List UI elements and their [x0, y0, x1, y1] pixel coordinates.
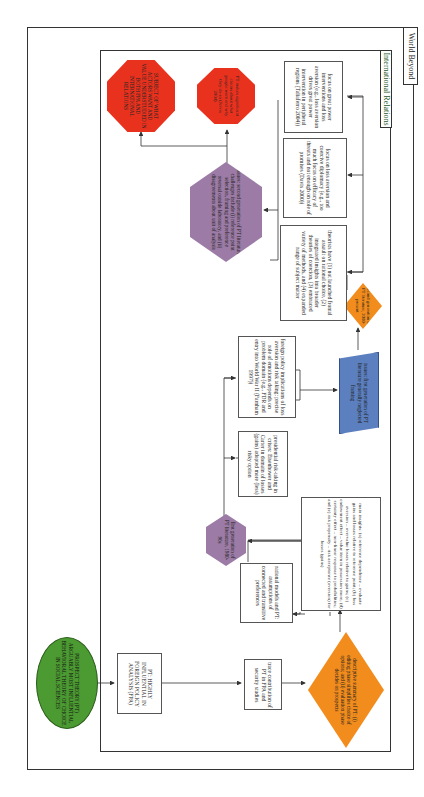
first-gen-issues-node: issues: first generation of PT literatur…: [339, 352, 379, 434]
prospect-theory-root-node: PROSPECT THEORY (PT) ARGUABLY MOST INFLU…: [36, 637, 98, 729]
rational-models-node: rational models and PT: assumptions of c…: [240, 563, 293, 623]
main-insights-node: main insights: (a) reference dependence …: [301, 497, 381, 611]
fpa-text: PT: HIGHLY INFLUENTIAL IN FOREIGN POLICY…: [127, 655, 153, 713]
subject-text: SUBJECT OF WHAT ACTORS WANT AND VALUE UN…: [123, 63, 159, 129]
pt-claims-text: PT makes significant claims about what p…: [212, 74, 240, 118]
first-gen-text: first generation of PT literature, 1980-…: [216, 518, 235, 562]
first-gen-issues-text: issues: first generation of PT literatur…: [349, 360, 368, 426]
coercive-diplomacy-node: focus on loss aversion and coercive dipl…: [283, 138, 347, 218]
rational-text: rational models and PT: assumptions of c…: [254, 565, 280, 621]
great-power-node: focus on great power interventions and l…: [284, 61, 343, 133]
great-power-text: focus on great power interventions and l…: [294, 64, 332, 130]
theorists-text: theorists have (1) not launched frontal …: [294, 229, 332, 317]
presidential-text: presidential risk-taking in crises: Eise…: [247, 433, 279, 495]
foreign-policy-node: foreign policy implications of loss aver…: [238, 336, 296, 418]
foreign-policy-text: foreign policy implications of loss aver…: [248, 338, 286, 416]
insights-text: main insights: (a) reference dependence …: [319, 499, 363, 609]
second-gen-text: second generation of PT literature, 2000…: [355, 284, 371, 328]
root-text: PROSPECT THEORY (PT) ARGUABLY MOST INFLU…: [54, 640, 80, 726]
fpa-node: PT: HIGHLY INFLUENTIAL IN FOREIGN POLICY…: [117, 653, 162, 714]
coercive-text: focus on loss aversion and coercive dipl…: [299, 141, 331, 215]
trace-text: trace contribution of PT in FPA and secu…: [253, 661, 272, 709]
second-gen-issues-text: issues: second generation of PT literatu…: [210, 169, 241, 255]
presidential-risk-node: presidential risk-taking in crises: Eise…: [238, 431, 288, 497]
theorists-node: theorists have (1) not launched frontal …: [280, 225, 347, 321]
descriptive-text: descriptive summary of PT: (i) editing p…: [334, 655, 358, 725]
trace-node: trace contribution of PT in FPA and secu…: [244, 659, 282, 710]
